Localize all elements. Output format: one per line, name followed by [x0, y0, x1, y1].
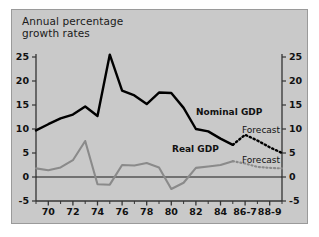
x-tick-label: 70	[42, 206, 56, 217]
y-axis-left: -50510152025	[16, 51, 36, 206]
x-tick-label: 88-9	[258, 206, 282, 217]
x-tick-label: 74	[91, 206, 105, 217]
y-tick-label-left: -5	[18, 195, 29, 206]
x-tick-label: 82	[189, 206, 202, 217]
y-tick-label-right: 0	[289, 171, 296, 182]
x-tick-label: 72	[66, 206, 79, 217]
series-line-nominal-gdp-forecast	[233, 135, 282, 153]
series-label-real-gdp: Real GDP	[172, 144, 219, 154]
y-tick-label-left: 0	[22, 171, 29, 182]
chart-figure: Annual percentage growth rates -50510152…	[0, 0, 319, 237]
x-tick-label: 86-7	[233, 206, 257, 217]
y-tick-label-right: 20	[289, 75, 303, 86]
forecast-label-nominal: Forecast	[242, 125, 281, 135]
x-axis: 707274767880828486-788-9	[36, 201, 282, 217]
series-label-nominal-gdp: Nominal GDP	[196, 107, 263, 117]
series-line-nominal-gdp	[36, 55, 233, 145]
y-axis-right: -50510152025	[282, 51, 303, 206]
y-tick-label-left: 25	[16, 51, 29, 62]
y-tick-label-right: 10	[289, 123, 303, 134]
y-tick-label-left: 20	[16, 75, 30, 86]
chart-plot: -50510152025 -50510152025 70727476788082…	[0, 0, 319, 237]
y-tick-label-left: 15	[16, 99, 29, 110]
y-tick-label-right: 25	[289, 51, 302, 62]
y-tick-label-right: 5	[289, 147, 296, 158]
x-tick-label: 80	[165, 206, 179, 217]
y-tick-label-right: -5	[289, 195, 300, 206]
y-tick-label-left: 10	[16, 123, 30, 134]
x-tick-label: 84	[214, 206, 228, 217]
y-tick-label-right: 15	[289, 99, 302, 110]
forecast-label-real: Forecast	[242, 155, 281, 165]
y-tick-label-left: 5	[22, 147, 29, 158]
x-tick-label: 76	[115, 206, 129, 217]
x-tick-label: 78	[140, 206, 154, 217]
